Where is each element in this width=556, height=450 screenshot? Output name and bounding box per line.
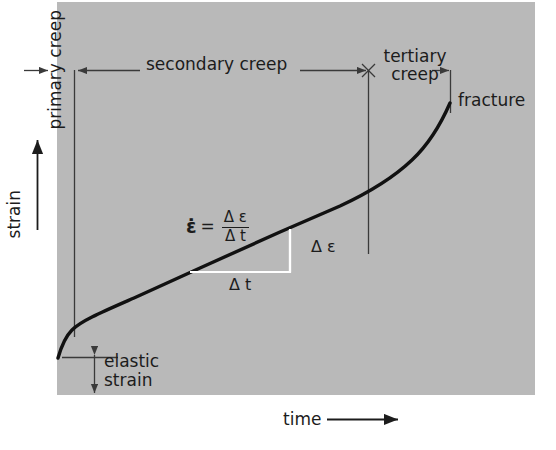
delta-t-label: Δ t xyxy=(229,277,251,294)
equation-equals-sign: = xyxy=(201,218,215,236)
fracture-label: fracture xyxy=(458,92,525,110)
elastic-strain-label-line2: strain xyxy=(104,371,159,390)
equation-numerator: Δ ε xyxy=(221,210,250,227)
y-axis-label-strain: strain xyxy=(6,190,24,238)
elastic-strain-label: elastic strain xyxy=(104,352,159,390)
equation-fraction: Δ ε Δ t xyxy=(221,210,250,245)
delta-epsilon-label: Δ ε xyxy=(311,239,336,256)
strain-rate-equation: ε̇ = Δ ε Δ t xyxy=(186,210,250,245)
x-axis-label-time: time xyxy=(283,411,321,429)
secondary-creep-label: secondary creep xyxy=(146,56,287,74)
tertiary-creep-label-line2: creep xyxy=(379,66,451,84)
elastic-strain-label-line1: elastic xyxy=(104,352,159,371)
equation-lhs-epsilon-dot: ε̇ xyxy=(186,217,197,237)
plot-panel xyxy=(57,2,535,395)
creep-curve-figure: primary creep secondary creep tertiary c… xyxy=(0,0,556,450)
tertiary-creep-label: tertiary creep xyxy=(379,48,451,84)
equation-row: ε̇ = Δ ε Δ t xyxy=(186,210,250,245)
equation-denominator: Δ t xyxy=(222,227,249,245)
primary-creep-label: primary creep xyxy=(47,10,65,130)
